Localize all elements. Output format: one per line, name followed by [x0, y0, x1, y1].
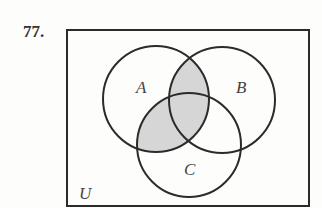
label-c: C — [184, 160, 196, 179]
venn-diagram: A B C U — [0, 0, 322, 208]
label-b: B — [236, 78, 247, 97]
label-u: U — [79, 184, 93, 203]
label-a: A — [135, 78, 147, 97]
